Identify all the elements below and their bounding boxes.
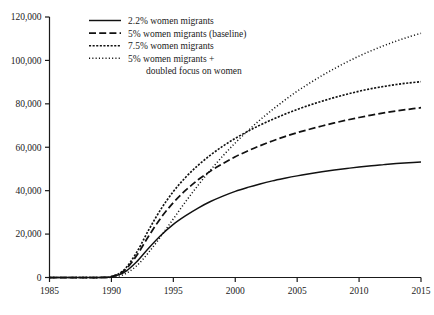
x-axis-tick-label: 2000	[226, 286, 245, 296]
y-axis-tick-label: 20,000	[15, 229, 41, 239]
x-axis-tick-label: 2010	[350, 286, 369, 296]
x-axis-tick-label: 1985	[40, 286, 59, 296]
x-axis-tick-label: 2005	[288, 286, 307, 296]
y-axis-tick-label: 100,000	[11, 56, 42, 66]
y-axis-tick-label: 40,000	[15, 186, 41, 196]
y-axis-ticks	[45, 17, 50, 278]
line-chart: 020,00040,00060,00080,000100,000120,000 …	[0, 0, 434, 315]
x-axis-tick-label: 1995	[164, 286, 183, 296]
y-axis-tick-label: 80,000	[15, 99, 41, 109]
chart-axes	[49, 17, 421, 278]
y-axis-tick-label: 120,000	[11, 12, 42, 22]
chart-legend: 2.2% women migrants5% women migrants (ba…	[89, 16, 246, 76]
legend-item-label: 7.5% women migrants	[128, 41, 214, 51]
chart-series-line	[50, 162, 422, 278]
legend-item-label: 2.2% women migrants	[128, 16, 214, 26]
x-axis-tick-label: 1990	[102, 286, 121, 296]
x-axis-tick-label: 2015	[412, 286, 431, 296]
y-axis-tick-label: 60,000	[15, 143, 41, 153]
chart-series-line	[50, 82, 422, 278]
legend-item-label: 5% women migrants +	[128, 54, 214, 64]
legend-item-label: doubled focus on women	[146, 66, 242, 76]
legend-item-label: 5% women migrants (baseline)	[128, 29, 246, 40]
y-axis-tick-label: 0	[37, 273, 42, 283]
chart-container: 020,00040,00060,00080,000100,000120,000 …	[0, 0, 434, 315]
chart-series-line	[50, 108, 422, 278]
x-axis-tick-labels: 1985199019952000200520102015	[40, 286, 431, 296]
y-axis-tick-labels: 020,00040,00060,00080,000100,000120,000	[11, 12, 42, 283]
